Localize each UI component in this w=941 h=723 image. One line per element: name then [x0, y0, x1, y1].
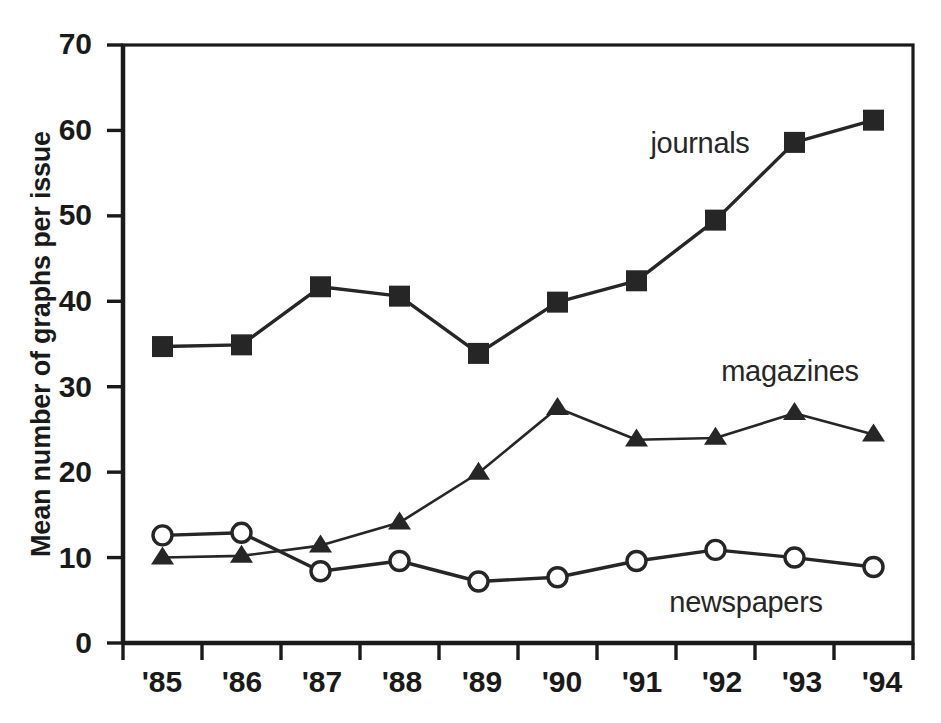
data-point-newspapers-90 [548, 568, 567, 587]
data-series-group [151, 110, 885, 591]
data-point-magazines-88 [388, 511, 411, 529]
data-point-newspapers-91 [627, 551, 646, 570]
data-point-newspapers-93 [785, 548, 804, 567]
data-point-journals-85 [152, 336, 173, 357]
data-point-journals-86 [231, 334, 252, 355]
plot-area [0, 0, 941, 723]
data-point-journals-93 [784, 132, 805, 153]
data-point-newspapers-89 [469, 572, 488, 591]
chart-figure: Mean number of graphs per issue 70 60 50… [0, 0, 941, 723]
data-point-newspapers-87 [311, 562, 330, 581]
data-point-journals-88 [389, 286, 410, 307]
data-point-newspapers-85 [153, 526, 172, 545]
data-point-magazines-85 [151, 546, 174, 564]
data-point-magazines-90 [546, 397, 569, 415]
data-point-newspapers-94 [864, 557, 883, 576]
data-point-journals-91 [626, 270, 647, 291]
data-point-journals-90 [547, 292, 568, 313]
data-point-newspapers-88 [390, 551, 409, 570]
data-point-newspapers-86 [232, 523, 251, 542]
data-point-magazines-93 [783, 402, 806, 420]
data-point-journals-92 [705, 210, 726, 231]
data-point-journals-89 [468, 343, 489, 364]
data-point-magazines-89 [467, 462, 490, 480]
data-point-journals-87 [310, 276, 331, 297]
data-point-journals-94 [863, 110, 884, 131]
data-point-newspapers-92 [706, 540, 725, 559]
